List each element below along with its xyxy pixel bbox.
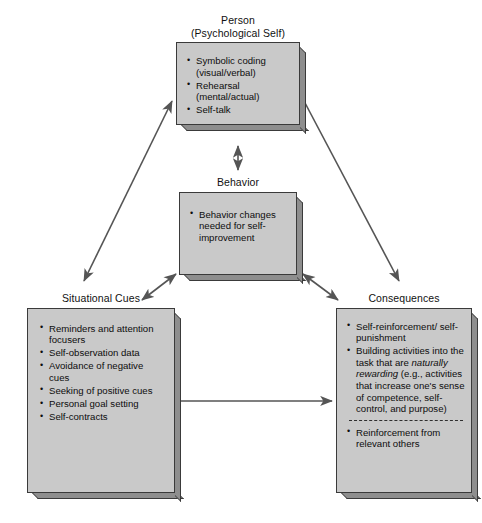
node-situational-cues-label: Situational Cues	[27, 292, 175, 305]
section-divider	[349, 420, 463, 421]
node-behavior-box[interactable]: Behavior changes needed for self-improve…	[179, 192, 297, 275]
node-consequences-list-top: Self-reinforcement/ self-punishment Buil…	[347, 321, 465, 415]
list-item: Reminders and attention focusers	[40, 323, 166, 346]
node-person[interactable]: Person (Psychological Self) Symbolic cod…	[176, 14, 300, 125]
connector-behavior-consequences	[303, 274, 338, 300]
node-consequences[interactable]: Consequences Self-reinforcement/ self-pu…	[336, 292, 472, 493]
node-person-box[interactable]: Symbolic coding (visual/verbal) Rehearsa…	[176, 42, 300, 125]
connector-person-situational-cues	[84, 101, 172, 281]
list-item: Self-contracts	[40, 411, 166, 423]
node-situational-cues[interactable]: Situational Cues Reminders and attention…	[27, 292, 175, 493]
node-behavior-list: Behavior changes needed for self-improve…	[190, 209, 288, 244]
list-item: Building activities into the task that a…	[347, 345, 465, 415]
list-item: Behavior changes needed for self-improve…	[190, 209, 288, 244]
list-item: Avoidance of negative cues	[40, 360, 166, 383]
node-consequences-label: Consequences	[336, 292, 472, 305]
list-item: Reinforcement from relevant others	[347, 427, 465, 450]
node-person-label: Person (Psychological Self)	[176, 14, 300, 39]
list-item: Personal goal setting	[40, 398, 166, 410]
list-item: Self-observation data	[40, 347, 166, 359]
list-item: Self-talk	[187, 104, 291, 116]
connector-person-consequences	[304, 101, 399, 281]
list-item: Symbolic coding (visual/verbal)	[187, 55, 291, 78]
list-item: Rehearsal (mental/actual)	[187, 80, 291, 103]
node-situational-cues-list: Reminders and attention focusers Self-ob…	[40, 323, 166, 423]
node-consequences-box[interactable]: Self-reinforcement/ self-punishment Buil…	[336, 308, 472, 493]
list-item: Self-reinforcement/ self-punishment	[347, 321, 465, 344]
node-situational-cues-box[interactable]: Reminders and attention focusers Self-ob…	[27, 308, 175, 493]
node-behavior[interactable]: Behavior Behavior changes needed for sel…	[179, 176, 297, 275]
node-behavior-label: Behavior	[179, 176, 297, 189]
node-person-list: Symbolic coding (visual/verbal) Rehearsa…	[187, 55, 291, 116]
node-consequences-list-bottom: Reinforcement from relevant others	[347, 427, 465, 450]
list-item: Seeking of positive cues	[40, 385, 166, 397]
diagram-canvas: Person (Psychological Self) Symbolic cod…	[0, 0, 482, 523]
